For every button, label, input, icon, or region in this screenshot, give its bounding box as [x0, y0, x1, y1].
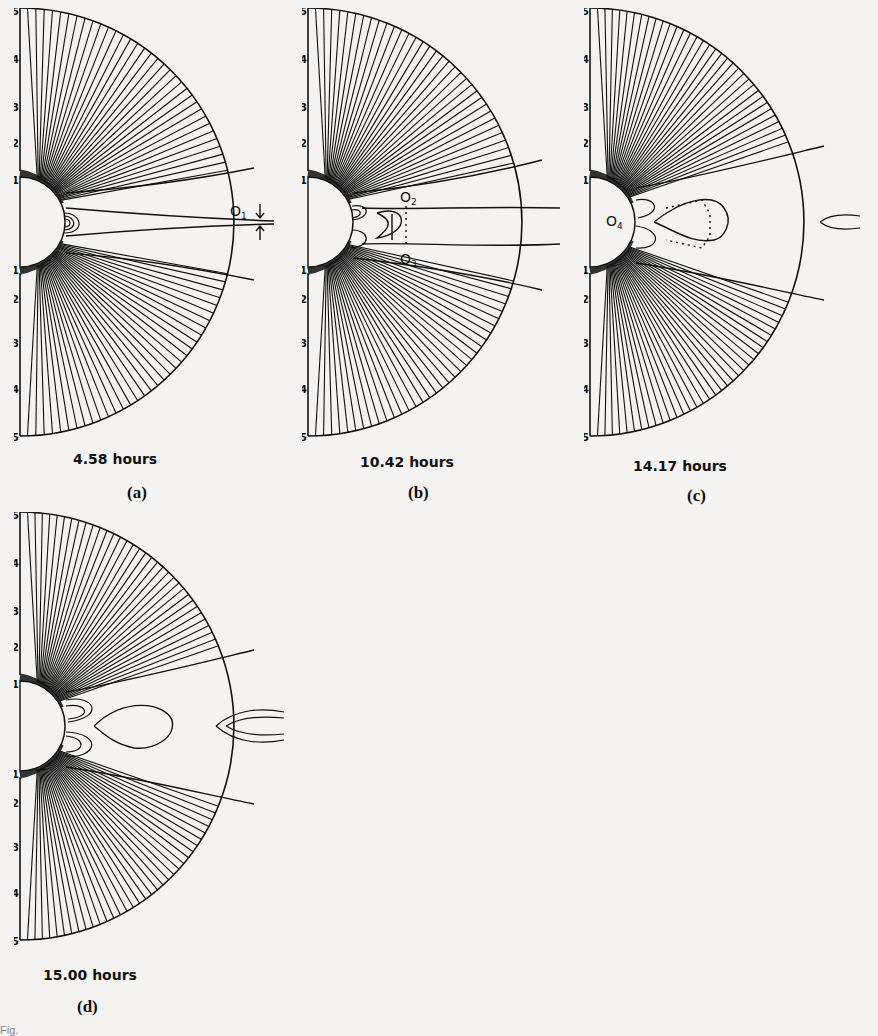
svg-text:3: 3 — [14, 606, 19, 617]
svg-text:1: 1 — [14, 769, 19, 780]
svg-text:3: 3 — [14, 102, 19, 113]
svg-text:2: 2 — [302, 138, 307, 149]
panel-d: 5432112345 — [14, 512, 304, 952]
svg-text:3: 3 — [302, 102, 307, 113]
svg-text:5: 5 — [584, 432, 589, 443]
field-line-diagram-a: 5432112345O1 — [14, 8, 294, 448]
svg-text:4: 4 — [302, 54, 307, 65]
panel-letter-b: (b) — [408, 483, 429, 503]
field-line-diagram-d: 5432112345 — [14, 512, 304, 952]
svg-text:5: 5 — [14, 936, 19, 947]
svg-text:2: 2 — [584, 138, 589, 149]
svg-text:5: 5 — [14, 8, 19, 17]
time-label-d: 15.00 hours — [43, 967, 137, 983]
svg-text:1: 1 — [302, 265, 307, 276]
svg-text:2: 2 — [302, 294, 307, 305]
panel-a: 5432112345O1 — [14, 8, 294, 448]
svg-text:3: 3 — [14, 338, 19, 349]
svg-text:4: 4 — [14, 384, 19, 395]
svg-text:5: 5 — [14, 512, 19, 521]
svg-text:1: 1 — [14, 265, 19, 276]
svg-text:5: 5 — [14, 432, 19, 443]
svg-text:3: 3 — [584, 102, 589, 113]
svg-text:5: 5 — [302, 8, 307, 17]
svg-text:2: 2 — [14, 798, 19, 809]
panel-letter-c: (c) — [687, 486, 706, 506]
svg-text:5: 5 — [584, 8, 589, 17]
svg-text:O1: O1 — [230, 203, 247, 221]
svg-text:3: 3 — [14, 842, 19, 853]
svg-text:4: 4 — [14, 558, 19, 569]
svg-text:4: 4 — [302, 384, 307, 395]
svg-text:4: 4 — [14, 54, 19, 65]
svg-text:4: 4 — [14, 888, 19, 899]
svg-text:3: 3 — [584, 338, 589, 349]
svg-text:4: 4 — [584, 384, 589, 395]
field-line-diagram-b: 5432112345O2O3 — [302, 8, 582, 448]
svg-text:5: 5 — [302, 432, 307, 443]
svg-text:3: 3 — [302, 338, 307, 349]
svg-text:1: 1 — [584, 265, 589, 276]
svg-text:O3: O3 — [400, 251, 417, 269]
panel-letter-d: (d) — [77, 997, 98, 1017]
time-label-b: 10.42 hours — [360, 454, 454, 470]
panel-b: 5432112345O2O3 — [302, 8, 582, 448]
panel-c: 5432112345O4 — [584, 8, 874, 448]
svg-text:2: 2 — [14, 294, 19, 305]
field-line-diagram-c: 5432112345O4 — [584, 8, 874, 448]
svg-text:O2: O2 — [400, 189, 417, 207]
svg-text:1: 1 — [14, 679, 19, 690]
svg-text:2: 2 — [584, 294, 589, 305]
svg-text:2: 2 — [14, 642, 19, 653]
svg-text:1: 1 — [584, 175, 589, 186]
time-label-c: 14.17 hours — [633, 458, 727, 474]
time-label-a: 4.58 hours — [73, 451, 157, 467]
svg-text:1: 1 — [14, 175, 19, 186]
figure-caption-fragment: Fig. — [0, 1024, 18, 1036]
panel-letter-a: (a) — [127, 483, 147, 503]
svg-text:2: 2 — [14, 138, 19, 149]
svg-text:1: 1 — [302, 175, 307, 186]
svg-text:4: 4 — [584, 54, 589, 65]
